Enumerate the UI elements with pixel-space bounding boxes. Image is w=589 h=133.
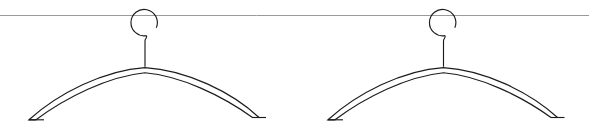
hanger-scene-svg [0, 0, 589, 133]
hanger-illustration-canvas [0, 0, 589, 133]
scene-background [0, 0, 589, 133]
